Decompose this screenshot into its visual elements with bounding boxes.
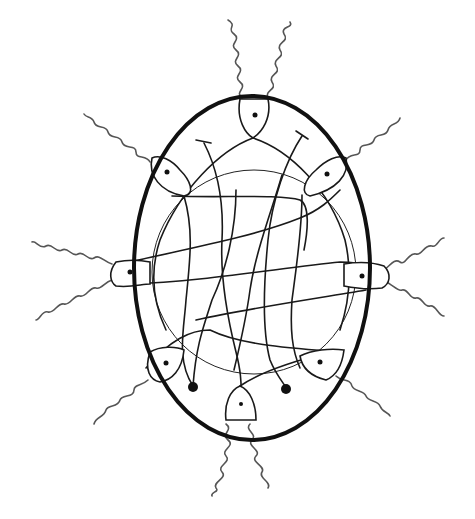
dot-bottom-icon — [239, 402, 243, 406]
knob-left-icon — [188, 382, 198, 392]
braid-top-right-icon — [267, 22, 290, 98]
dot-top-icon — [253, 113, 258, 118]
fiber-vertical-4 — [193, 190, 236, 386]
braided-appendages — [32, 20, 444, 496]
lobe-top — [239, 99, 269, 138]
lobe-lower-right — [300, 349, 344, 380]
dot-upper-right-icon — [325, 172, 330, 177]
dot-lower-left-icon — [164, 361, 169, 366]
fiber-horizontal-4 — [196, 290, 366, 320]
t-end-right-icon — [296, 131, 308, 139]
dot-left-icon — [128, 270, 133, 275]
dot-upper-left-icon — [165, 170, 170, 175]
braid-upper-left-icon — [84, 114, 150, 162]
dot-right-icon — [360, 274, 365, 279]
cell-outline — [134, 96, 370, 440]
braid-lower-right-icon — [336, 376, 390, 416]
lobe-right — [344, 263, 389, 289]
braid-upper-right-icon — [346, 118, 400, 160]
braid-left-upper-icon — [32, 242, 112, 264]
braid-left-lower-icon — [36, 280, 112, 320]
braid-bottom-right-icon — [248, 424, 268, 488]
cell-diagram — [0, 0, 475, 519]
diagram-canvas — [0, 0, 475, 519]
braid-right-upper-icon — [384, 238, 444, 270]
knob-right-icon — [281, 384, 291, 394]
braid-right-lower-icon — [386, 282, 444, 316]
braid-lower-left-icon — [94, 380, 148, 424]
braid-top-left-icon — [228, 20, 243, 98]
fiber-horizontal-3 — [130, 262, 366, 284]
fiber-vertical-1 — [182, 196, 193, 386]
dot-lower-right-icon — [318, 360, 323, 365]
